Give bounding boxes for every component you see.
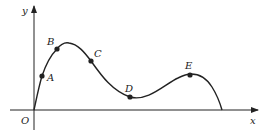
label-a: A — [46, 72, 54, 83]
point-b — [54, 46, 59, 51]
curve — [34, 43, 222, 110]
point-c — [88, 58, 93, 63]
point-d — [127, 94, 132, 99]
origin-label: O — [21, 115, 29, 126]
label-d: D — [124, 83, 133, 94]
x-axis-label: x — [250, 115, 256, 126]
y-axis-label: y — [21, 5, 28, 16]
point-a — [39, 73, 44, 78]
label-e: E — [184, 60, 193, 71]
label-c: C — [94, 48, 102, 59]
point-e — [187, 72, 192, 77]
label-b: B — [46, 36, 54, 47]
function-graph: A B C D E y x O — [0, 0, 263, 134]
